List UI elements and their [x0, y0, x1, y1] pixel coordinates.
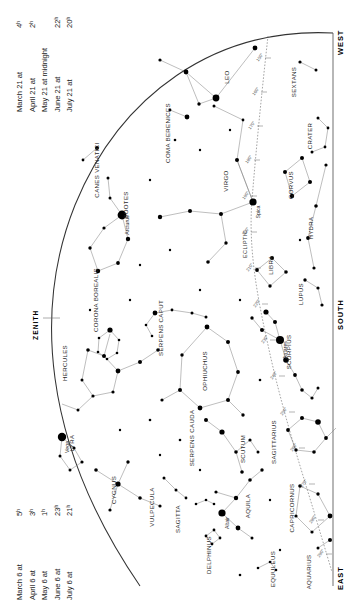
constellation-labels: LEOSEXTANSCOMA BERENICESCANES VENATICICR… [61, 67, 314, 590]
sky-map: LEOSEXTANSCOMA BERENICESCANES VENATICICR… [0, 0, 350, 614]
bottom-time-4: 21ʰ [65, 505, 74, 516]
cardinal-west: WEST [336, 30, 345, 55]
top-date-4: July 21 at [65, 79, 74, 112]
bottom-date-4: July 6 at [65, 571, 74, 600]
top-time-3: 22ʰ [53, 17, 62, 28]
constellation-label-corona-borealis: CORONA BOREALIS [92, 268, 99, 332]
ecliptic-ticks [251, 58, 332, 554]
bottom-date-1: April 6 at [28, 569, 37, 600]
ecliptic-degree-240: 240° [269, 370, 278, 381]
ecliptic-degree-180: 180° [244, 154, 253, 165]
ecliptic-degree-250: 250° [279, 406, 288, 417]
zenith-label: ZENITH [32, 310, 39, 340]
ecliptic-degree-170: 170° [247, 120, 256, 131]
bottom-date-2: May 6 at [40, 570, 49, 600]
constellation-label-ophiuchus: OPHIUCHUS [201, 351, 208, 391]
bottom-date-3: June 6 at [53, 568, 62, 600]
ecliptic-degree-270: 270° [299, 478, 308, 489]
constellation-label-aquila: AQUILA [244, 493, 251, 518]
constellation-label-sextans: SEXTANS [290, 67, 297, 97]
constellation-label-coma-berenices: COMA BERENICES [164, 103, 171, 163]
constellation-label-scutum: SCUTUM [239, 435, 246, 463]
top-time-0: 4ʰ [15, 21, 24, 28]
ecliptic-degree-150: 150° [255, 52, 264, 63]
constellation-label-capricornus: CAPRICORNUS [288, 484, 295, 533]
ecliptic-degree-280: 280° [308, 514, 317, 525]
constellation-label-leo: LEO [223, 70, 230, 83]
ecliptic-degree-230: 230° [260, 334, 269, 345]
bottom-time-2: 1ʰ [40, 509, 49, 516]
constellation-label-hercules: HERCULES [61, 345, 68, 381]
constellation-label-libra: LIBRA [267, 255, 274, 275]
constellation-label-aquarius: AQUARIUS [305, 555, 312, 590]
constellation-label-cygnus: CYGNUS [110, 476, 117, 504]
constellation-label-canes-venatici: CANES VENATICI [93, 142, 100, 197]
top-date-0: March 21 at [15, 71, 24, 112]
top-date-3: June 21 at [53, 76, 62, 112]
ecliptic-label: ECLIPTIC [242, 230, 248, 258]
star-label-vega: Vega [64, 441, 70, 453]
bottom-date-0: March 6 at [15, 563, 24, 600]
date-table-bottom: March 6 at5ʰApril 6 at3ʰMay 6 at1ʰJune 6… [15, 505, 74, 600]
top-date-2: May 21 at midnight [40, 47, 49, 112]
constellation-label-sagittarius: SAGITTARIUS [270, 420, 277, 464]
cardinal-east: EAST [336, 566, 345, 590]
constellation-label-hydra: HYDRA [307, 216, 314, 240]
bottom-time-1: 3ʰ [28, 509, 37, 516]
constellation-label-serpens-caput: SERPENS CAPUT [157, 300, 164, 356]
star-chart-root: LEOSEXTANSCOMA BERENICESCANES VENATICICR… [0, 0, 350, 614]
star-name-labels: ArcturusSpicaAntaresVegaAltair [64, 205, 288, 529]
bottom-time-0: 5ʰ [15, 509, 24, 516]
star-label-spica: Spica [255, 205, 261, 218]
constellation-label-corvus: CORVUS [287, 171, 294, 199]
star-label-arcturus: Arcturus [124, 215, 130, 235]
constellation-label-lupus: LUPUS [297, 283, 304, 305]
constellation-label-sagitta: SAGITTA [174, 504, 181, 533]
top-time-1: 2ʰ [28, 21, 37, 28]
date-table-top: March 21 at4ʰApril 21 at2ʰMay 21 at midn… [15, 17, 74, 112]
star-label-altair: Altair [224, 517, 230, 529]
constellation-label-serpens-cauda: SERPENS CAUDA [188, 409, 195, 466]
ecliptic-degree-160: 160° [251, 86, 260, 97]
constellation-label-bootes: BOOTES [122, 191, 129, 219]
bottom-time-3: 23ʰ [53, 505, 62, 516]
ecliptic-degree-210: 210° [245, 262, 254, 273]
constellation-label-equuleus: EQUULEUS [269, 551, 276, 587]
constellation-label-delphinus: DELPHINUS [205, 536, 212, 574]
constellation-label-vulpecula: VULPECULA [148, 487, 155, 527]
constellation-label-virgo: VIRGO [222, 170, 229, 191]
constellation-label-crater: CRATER [306, 122, 313, 149]
top-time-4: 20ʰ [65, 17, 74, 28]
cardinal-south: SOUTH [336, 299, 345, 330]
top-date-1: April 21 at [28, 77, 37, 112]
star-label-antares: Antares [282, 341, 288, 359]
